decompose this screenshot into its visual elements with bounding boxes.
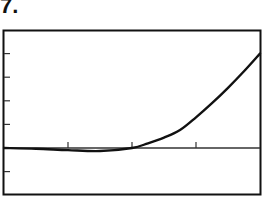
y-axis-ticks (4, 54, 10, 172)
function-curve (4, 54, 260, 152)
plot-frame (4, 31, 261, 195)
graph-plot (0, 0, 268, 205)
